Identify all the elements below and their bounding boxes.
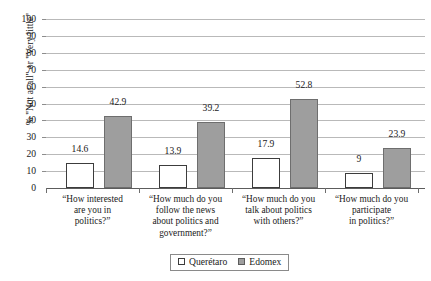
ytick-mark-10 <box>42 171 46 172</box>
bar-queretaro-3 <box>252 158 280 188</box>
xtick-0 <box>46 188 47 193</box>
category-label-1: “How interested are you in politics?” <box>46 194 139 228</box>
ytick-mark-70 <box>42 70 46 71</box>
category-label-2-line-1: “How much do you <box>139 194 232 205</box>
bar-queretaro-4 <box>345 173 373 188</box>
x-axis-line <box>46 188 425 189</box>
legend-item-edomex[interactable]: Edomex <box>238 257 281 267</box>
category-label-1-line-3: politics?” <box>46 216 139 227</box>
ytick-mark-40 <box>42 120 46 121</box>
bar-queretaro-1 <box>66 163 94 188</box>
plot-area: 100 90 80 70 60 50 40 30 20 10 0 14.6 <box>46 19 425 188</box>
xtick-4 <box>418 188 419 193</box>
category-label-1-line-1: “How interested <box>46 194 139 205</box>
ytick-mark-80 <box>42 53 46 54</box>
ytick-label-60: 60 <box>0 82 36 92</box>
bar-value-queretaro-4: 9 <box>333 154 385 164</box>
ytick-mark-30 <box>42 137 46 138</box>
ytick-label-80: 80 <box>0 48 36 58</box>
ytick-mark-60 <box>42 87 46 88</box>
bar-value-queretaro-3: 17.9 <box>240 139 292 149</box>
gridline-80 <box>46 53 425 54</box>
ytick-label-10: 10 <box>0 166 36 176</box>
ytick-label-0: 0 <box>0 183 36 193</box>
gridline-70 <box>46 70 425 71</box>
chart-legend: Querétaro Edomex <box>170 254 289 271</box>
gridline-100 <box>46 19 425 20</box>
xtick-1 <box>139 188 140 193</box>
category-label-2-line-2: follow the news <box>139 205 232 216</box>
bar-value-edomex-3: 52.8 <box>278 80 330 90</box>
bar-value-edomex-1: 42.9 <box>92 97 144 107</box>
category-label-4-line-3: in politics?” <box>325 216 418 227</box>
category-label-4-line-1: “How much do you <box>325 194 418 205</box>
ytick-mark-50 <box>42 104 46 105</box>
ytick-label-70: 70 <box>0 65 36 75</box>
gridline-40 <box>46 120 425 121</box>
bar-queretaro-2 <box>159 165 187 189</box>
category-label-2-line-3: about politics and <box>139 216 232 227</box>
gridline-30 <box>46 137 425 138</box>
ytick-label-90: 90 <box>0 31 36 41</box>
bar-value-edomex-4: 23.9 <box>371 129 423 139</box>
bar-edomex-2 <box>197 122 225 188</box>
legend-item-queretaro[interactable]: Querétaro <box>178 257 227 267</box>
category-label-3: “How much do you talk about politics wit… <box>232 194 325 228</box>
category-label-2-line-4: government?” <box>139 228 232 239</box>
ytick-label-100: 100 <box>0 14 36 24</box>
bar-edomex-4 <box>383 148 411 188</box>
gridline-90 <box>46 36 425 37</box>
legend-label-queretaro: Querétaro <box>189 257 227 267</box>
category-label-3-line-3: with others?” <box>232 216 325 227</box>
legend-label-edomex: Edomex <box>249 257 281 267</box>
category-label-3-line-1: “How much do you <box>232 194 325 205</box>
category-label-2: “How much do you follow the news about p… <box>139 194 232 239</box>
category-label-4: “How much do you participate in politics… <box>325 194 418 228</box>
xtick-3 <box>325 188 326 193</box>
ytick-mark-20 <box>42 154 46 155</box>
category-label-3-line-2: talk about politics <box>232 205 325 216</box>
ytick-label-50: 50 <box>0 99 36 109</box>
ytick-mark-100 <box>42 19 46 20</box>
open-square-swatch-icon <box>178 258 185 265</box>
category-label-1-line-2: are you in <box>46 205 139 216</box>
bar-value-edomex-2: 39.2 <box>185 103 237 113</box>
ytick-label-40: 40 <box>0 115 36 125</box>
ytick-label-30: 30 <box>0 132 36 142</box>
bar-edomex-3 <box>290 99 318 188</box>
xtick-2 <box>232 188 233 193</box>
filled-square-swatch-icon <box>238 258 245 265</box>
gridline-60 <box>46 87 425 88</box>
bar-value-queretaro-2: 13.9 <box>147 146 199 156</box>
category-label-4-line-2: participate <box>325 205 418 216</box>
bar-edomex-1 <box>104 116 132 189</box>
bar-value-queretaro-1: 14.6 <box>54 144 106 154</box>
ytick-label-20: 20 <box>0 149 36 159</box>
bar-chart: % "Not at all" or "Very little" 100 90 8… <box>0 0 431 281</box>
ytick-mark-90 <box>42 36 46 37</box>
